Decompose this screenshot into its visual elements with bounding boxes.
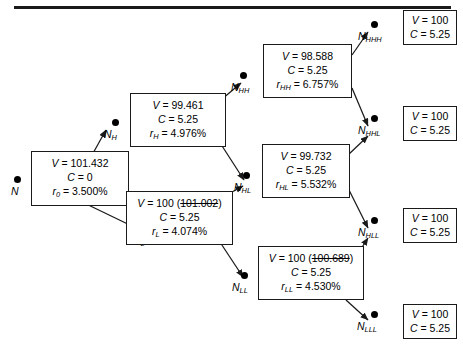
node-dot-hl [243,172,250,179]
node-label-hll: NHLL [358,226,379,240]
node-label-root: N [11,185,19,197]
node-label-hh: NHH [231,81,249,95]
node-box-lll: V = 100 C = 5.25 [403,304,457,339]
node-label-hhl: NHHL [358,124,380,138]
node-label-h: NH [104,128,117,142]
struck-value-l: 101.002 [180,197,218,209]
node-box-hll: V = 100 C = 5.25 [403,208,457,243]
node-label-ll: NLL [232,281,248,295]
node-box-hhh: V = 100 C = 5.25 [403,10,457,45]
node-box-hl: V = 99.732 C = 5.25 rHL = 5.532% [262,144,350,198]
node-box-l: V = 100 (101.002) C = 5.25 rL = 4.074% [126,191,233,245]
node-dot-hhl [371,115,378,122]
node-dot-hll [371,217,378,224]
node-label-hhh: NHHH [358,30,382,44]
node-dot-ll [241,272,248,279]
node-box-hh: V = 98.588 C = 5.25 rHH = 6.757% [263,44,352,98]
node-label-lll: NLLL [357,320,377,334]
node-label-hl: NHL [234,181,251,195]
node-dot-hhh [371,21,378,28]
node-dot-lll [371,311,378,318]
node-box-ll: V = 100 (100.689) C = 5.25 rLL = 4.530% [258,246,364,300]
top-horizontal-rule [14,6,451,9]
node-dot-h [112,119,119,126]
node-dot-root [14,176,21,183]
struck-value-ll: 100.689 [312,252,350,264]
binomial-tree-figure: N V = 101.432 C = 0 r0 = 3.500% NH V = 9… [0,0,463,353]
node-box-root: V = 101.432 C = 0 r0 = 3.500% [31,151,129,206]
node-dot-hh [240,72,247,79]
node-box-hhl: V = 100 C = 5.25 [403,106,457,141]
node-box-h: V = 99.461 C = 5.25 rH = 4.976% [130,93,226,147]
